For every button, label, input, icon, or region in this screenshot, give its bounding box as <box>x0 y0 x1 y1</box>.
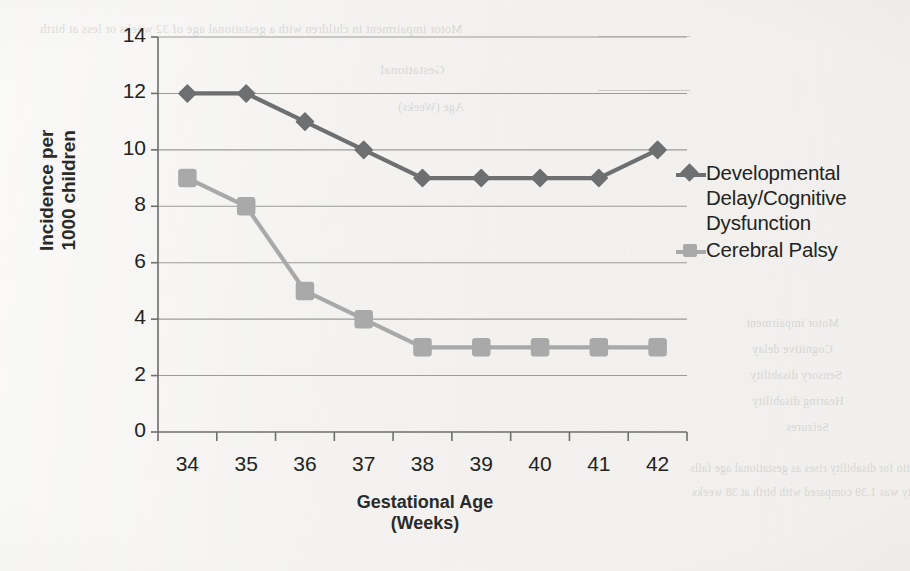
x-axis-title: Gestational Age (Weeks) <box>160 492 690 534</box>
chart-figure: Incidence per 1000 children Gestational … <box>0 0 910 571</box>
y-axis-title: Incidence per 1000 children <box>36 70 81 310</box>
legend-item-cerebral-palsy[interactable]: Cerebral Palsy <box>676 237 900 264</box>
x-axis-title-line1: Gestational Age <box>357 492 493 512</box>
legend-label-line1: Cerebral Palsy <box>706 238 838 261</box>
y-tick-label: 14 <box>100 23 146 47</box>
y-tick-label: 12 <box>100 79 146 103</box>
y-tick-label: 6 <box>100 249 146 273</box>
legend-label-line2: Delay/Cognitive <box>706 186 847 209</box>
x-tick-label: 37 <box>340 452 388 476</box>
x-axis-title-line2: (Weeks) <box>391 513 460 533</box>
chart-legend: Developmental Delay/Cognitive Dysfunctio… <box>676 160 900 266</box>
y-axis-title-line1: Incidence per <box>36 130 57 251</box>
legend-item-developmental-delay[interactable]: Developmental Delay/Cognitive Dysfunctio… <box>676 160 900 235</box>
legend-label-line1: Developmental <box>706 161 840 184</box>
y-tick-label: 8 <box>100 192 146 216</box>
x-tick-label: 39 <box>457 452 505 476</box>
legend-square-marker-icon <box>676 238 706 264</box>
x-tick-label: 34 <box>163 452 211 476</box>
x-tick-label: 42 <box>634 452 682 476</box>
y-tick-label: 2 <box>100 362 146 386</box>
legend-label-developmental-delay: Developmental Delay/Cognitive Dysfunctio… <box>706 160 847 235</box>
y-tick-label: 10 <box>100 136 146 160</box>
legend-diamond-marker-icon <box>676 161 706 187</box>
x-tick-label: 36 <box>281 452 329 476</box>
x-tick-label: 40 <box>516 452 564 476</box>
x-tick-label: 41 <box>575 452 623 476</box>
y-tick-label: 4 <box>100 305 146 329</box>
legend-label-line3: Dysfunction <box>706 211 811 234</box>
x-tick-label: 35 <box>222 452 270 476</box>
x-tick-label: 38 <box>399 452 447 476</box>
y-tick-label: 0 <box>100 418 146 442</box>
y-axis-title-line2: 1000 children <box>58 130 79 250</box>
legend-label-cerebral-palsy: Cerebral Palsy <box>706 237 838 262</box>
